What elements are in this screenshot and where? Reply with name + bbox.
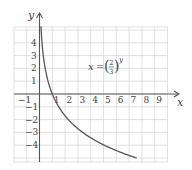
curve-x-equals-two-thirds-pow-y — [41, 26, 137, 158]
y-tick-label: 2 — [31, 63, 37, 73]
x-tick-label: 8 — [143, 95, 149, 105]
equation-lhs: x — [88, 61, 94, 72]
equation-label: x = ( 2 3 ) y — [88, 56, 124, 76]
x-tick-labels: 123456789 — [54, 95, 162, 105]
y-tick-label: 3 — [31, 51, 37, 61]
y-axis-label: y — [27, 9, 35, 22]
equation-exponent: y — [118, 56, 124, 64]
equation-denominator: 3 — [109, 68, 113, 76]
y-tick-label: 1 — [31, 76, 37, 86]
equation-numerator: 2 — [109, 59, 113, 67]
x-tick-label: 6 — [118, 95, 124, 105]
x-tick-label: 4 — [92, 95, 98, 105]
y-tick-label: −4 — [25, 140, 39, 150]
x-tick-label: 5 — [105, 95, 111, 105]
x-tick-label: 3 — [79, 95, 85, 105]
y-tick-label: −2 — [25, 115, 38, 125]
x-tick-label: 7 — [131, 95, 137, 105]
y-tick-label: −3 — [25, 127, 39, 137]
y-tick-label: 4 — [31, 38, 37, 48]
y-tick-label: −1 — [25, 102, 38, 112]
graph: x y −1 123456789 4321−1−2−3−4 x = ( 2 3 … — [0, 0, 192, 170]
x-tick-label: 2 — [67, 95, 73, 105]
x-axis-label: x — [177, 96, 184, 109]
x-tick-label: 9 — [156, 95, 162, 105]
